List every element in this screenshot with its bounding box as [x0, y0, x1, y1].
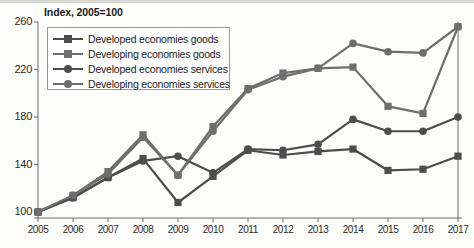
legend-item-3[interactable]: Developing economies services [53, 77, 224, 91]
data-point [69, 192, 77, 200]
y-tick-label: 100 [2, 205, 32, 217]
x-tick-label: 2014 [336, 224, 370, 235]
series-2 [34, 113, 462, 216]
legend-swatch-circle-icon [53, 63, 83, 75]
x-tick-label: 2011 [231, 224, 265, 235]
data-point [349, 116, 357, 124]
data-point [349, 145, 356, 152]
legend-item-0[interactable]: Developed economies goods [53, 32, 224, 46]
x-tick-label: 2013 [301, 224, 335, 235]
data-point [209, 169, 217, 177]
y-tick-label: 260 [2, 15, 32, 27]
x-tick-label: 2007 [91, 224, 125, 235]
data-point [454, 153, 461, 160]
data-point [384, 48, 392, 56]
data-point [454, 113, 462, 121]
chart-figure: Index, 2005=100 100140180220260 20052006… [0, 0, 474, 248]
data-point [419, 127, 427, 135]
x-tick-label: 2006 [56, 224, 90, 235]
data-point [279, 146, 287, 154]
data-point [244, 86, 252, 94]
legend-swatch-square-icon [53, 48, 83, 60]
x-tick-label: 2015 [371, 224, 405, 235]
x-tick-label: 2012 [266, 224, 300, 235]
x-tick-label: 2008 [126, 224, 160, 235]
y-tick-label: 220 [2, 63, 32, 75]
legend-marker-square-icon [64, 50, 72, 58]
y-tick-label: 180 [2, 110, 32, 122]
legend-label: Developing economies services [88, 78, 230, 90]
data-point [314, 141, 322, 149]
data-point [174, 171, 182, 179]
x-tick-label: 2017 [441, 224, 474, 235]
data-point [104, 170, 112, 178]
data-point [419, 49, 427, 57]
data-point [139, 133, 147, 141]
legend-swatch-square-icon [53, 33, 83, 45]
data-point [419, 110, 426, 117]
data-point [34, 208, 42, 216]
legend-item-1[interactable]: Developing economies goods [53, 47, 224, 61]
data-point [384, 127, 392, 135]
data-point [349, 40, 357, 48]
data-point [174, 199, 181, 206]
data-point [454, 23, 462, 31]
y-tick-label: 140 [2, 158, 32, 170]
data-point [419, 166, 426, 173]
chart-legend: Developed economies goodsDeveloping econ… [47, 27, 230, 90]
data-point [384, 167, 391, 174]
x-tick-label: 2009 [161, 224, 195, 235]
x-tick-label: 2005 [21, 224, 55, 235]
legend-label: Developed economies goods [88, 33, 218, 45]
data-point [314, 148, 321, 155]
data-point [314, 65, 322, 73]
x-tick-label: 2016 [406, 224, 440, 235]
data-point [349, 64, 356, 71]
legend-label: Developed economies services [88, 63, 228, 75]
data-point [384, 103, 391, 110]
legend-marker-circle-icon [64, 65, 72, 73]
data-point [279, 73, 287, 81]
data-point [209, 127, 217, 135]
data-point [139, 157, 147, 165]
x-tick-label: 2010 [196, 224, 230, 235]
legend-marker-circle-icon [64, 80, 72, 88]
legend-marker-square-icon [64, 35, 72, 43]
legend-item-2[interactable]: Developed economies services [53, 62, 224, 76]
data-point [244, 145, 252, 153]
data-point [174, 152, 182, 160]
legend-swatch-circle-icon [53, 78, 83, 90]
series-line [38, 117, 458, 212]
legend-label: Developing economies goods [88, 48, 221, 60]
